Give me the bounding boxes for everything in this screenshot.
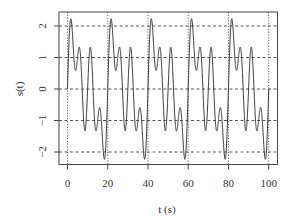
y-tick-label: 0 (36, 86, 48, 92)
x-tick-label: 100 (260, 177, 277, 189)
x-axis: 020406080100 (65, 165, 278, 189)
y-tick-label: 2 (36, 23, 48, 29)
x-tick-label: 60 (183, 177, 195, 189)
x-tick-label: 40 (142, 177, 154, 189)
x-tick-label: 80 (223, 177, 235, 189)
y-axis: −2−1012 (36, 23, 59, 158)
y-tick-label: 1 (36, 55, 48, 61)
y-tick-label: −1 (36, 115, 48, 127)
x-tick-label: 20 (102, 177, 114, 189)
x-axis-title: t (s) (158, 203, 176, 216)
y-axis-title: s(t) (13, 81, 26, 96)
chart-canvas: 020406080100 −2−1012 t (s) s(t) (0, 0, 292, 222)
y-tick-label: −2 (36, 146, 48, 158)
x-tick-label: 0 (65, 177, 71, 189)
